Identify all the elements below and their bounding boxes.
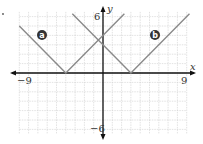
x-max-tick-label: 9 [181,76,187,86]
y-max-tick-label: 6 [94,12,100,22]
badge-b-label: b [152,31,158,40]
y-axis-label: y [107,4,113,14]
x-axis-arrow-left [10,71,16,76]
x-axis-label: x [190,62,196,72]
x-min-tick-label: −9 [17,76,32,86]
y-min-tick-label: −6 [90,124,105,134]
graph-a [19,14,124,73]
y-axis-arrow-down [101,134,106,140]
y-axis-arrow-up [101,6,106,12]
badge-a-label: a [39,31,44,40]
bullet-dot [2,13,4,15]
